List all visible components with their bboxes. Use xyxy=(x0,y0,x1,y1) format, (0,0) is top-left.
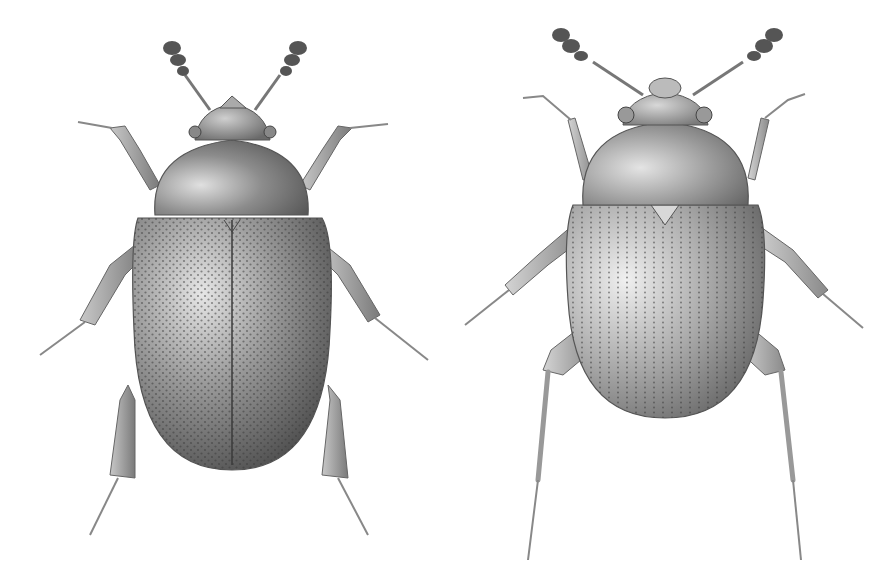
beetle-right-dorsal xyxy=(443,0,886,572)
beetle-left-dorsal xyxy=(0,0,443,572)
eye-left xyxy=(189,126,201,138)
beetle-illustration-plate xyxy=(0,0,886,572)
antenna-right xyxy=(255,75,280,110)
head xyxy=(195,104,270,140)
eye-right xyxy=(264,126,276,138)
beetle-left-drawing xyxy=(0,0,443,572)
antenna-left xyxy=(185,75,210,110)
pronotum xyxy=(155,140,308,215)
beetle-right-drawing xyxy=(443,0,886,572)
